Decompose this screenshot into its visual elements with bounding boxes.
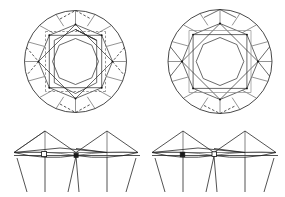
girdle-marker-right-a xyxy=(180,152,185,157)
vertex-markers-right xyxy=(181,23,259,101)
profile-left-panel xyxy=(14,131,140,192)
girdle-marker-left-b xyxy=(74,153,78,157)
top-view-left-panel xyxy=(25,11,127,113)
top-view-right-panel xyxy=(168,10,272,114)
construction-overlay-left xyxy=(27,11,125,113)
girdle-marker-left-a xyxy=(42,152,47,157)
upper-girdle-rays-right xyxy=(168,10,272,114)
table-octagon-right xyxy=(196,38,244,86)
vertex-markers-left xyxy=(38,24,114,100)
table-octagon-left xyxy=(53,39,99,85)
profile-right-panel xyxy=(152,131,278,192)
pavilion-left xyxy=(17,156,136,192)
girdle-marker-right-b xyxy=(212,152,217,157)
figure-root xyxy=(0,0,285,197)
upper-girdle-rays-left xyxy=(25,11,127,113)
brilliant-cut-diagram xyxy=(0,0,285,197)
construction-overlay-right xyxy=(171,10,270,114)
pavilion-right xyxy=(155,156,274,192)
